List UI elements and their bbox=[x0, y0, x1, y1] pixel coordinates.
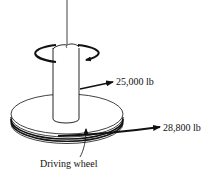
driving-wheel-label: Driving wheel bbox=[40, 158, 98, 169]
driving-wheel-diagram: 25,000 lb 28,800 lb Driving wheel bbox=[0, 0, 209, 182]
shaft-force-arrow bbox=[80, 82, 113, 89]
shaft-force-label: 25,000 lb bbox=[116, 76, 154, 87]
shaft bbox=[53, 44, 79, 123]
rotation-arrow-back-right bbox=[78, 45, 99, 53]
belt-force-label: 28,800 lb bbox=[163, 122, 201, 133]
